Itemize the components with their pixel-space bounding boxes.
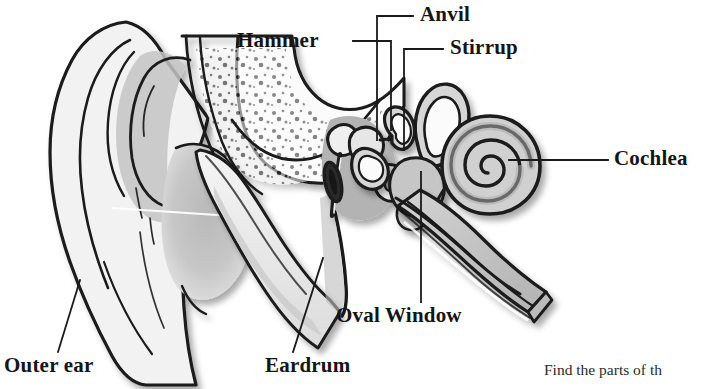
lateral-canal-inner	[359, 156, 383, 182]
label-oval-window: Oval Window	[336, 305, 462, 326]
label-outer-ear: Outer ear	[4, 355, 93, 376]
label-stirrup: Stirrup	[450, 37, 518, 58]
instruction-caption: Find the parts of th	[544, 362, 662, 378]
ear-illustration	[0, 0, 708, 389]
label-anvil: Anvil	[420, 4, 470, 25]
leader-outer-ear	[58, 280, 80, 352]
label-eardrum: Eardrum	[265, 355, 350, 376]
ear-anatomy-diagram: Hammer Anvil Stirrup Cochlea Oval Window…	[0, 0, 708, 389]
label-cochlea: Cochlea	[614, 148, 688, 169]
label-hammer: Hammer	[237, 30, 319, 51]
